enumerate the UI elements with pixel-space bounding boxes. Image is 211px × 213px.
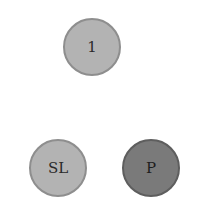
node-sl: SL (29, 139, 87, 197)
node-label: 1 (87, 38, 97, 56)
node-1: 1 (63, 18, 121, 76)
node-label: P (146, 159, 156, 177)
node-label: SL (48, 159, 68, 177)
node-p: P (122, 139, 180, 197)
